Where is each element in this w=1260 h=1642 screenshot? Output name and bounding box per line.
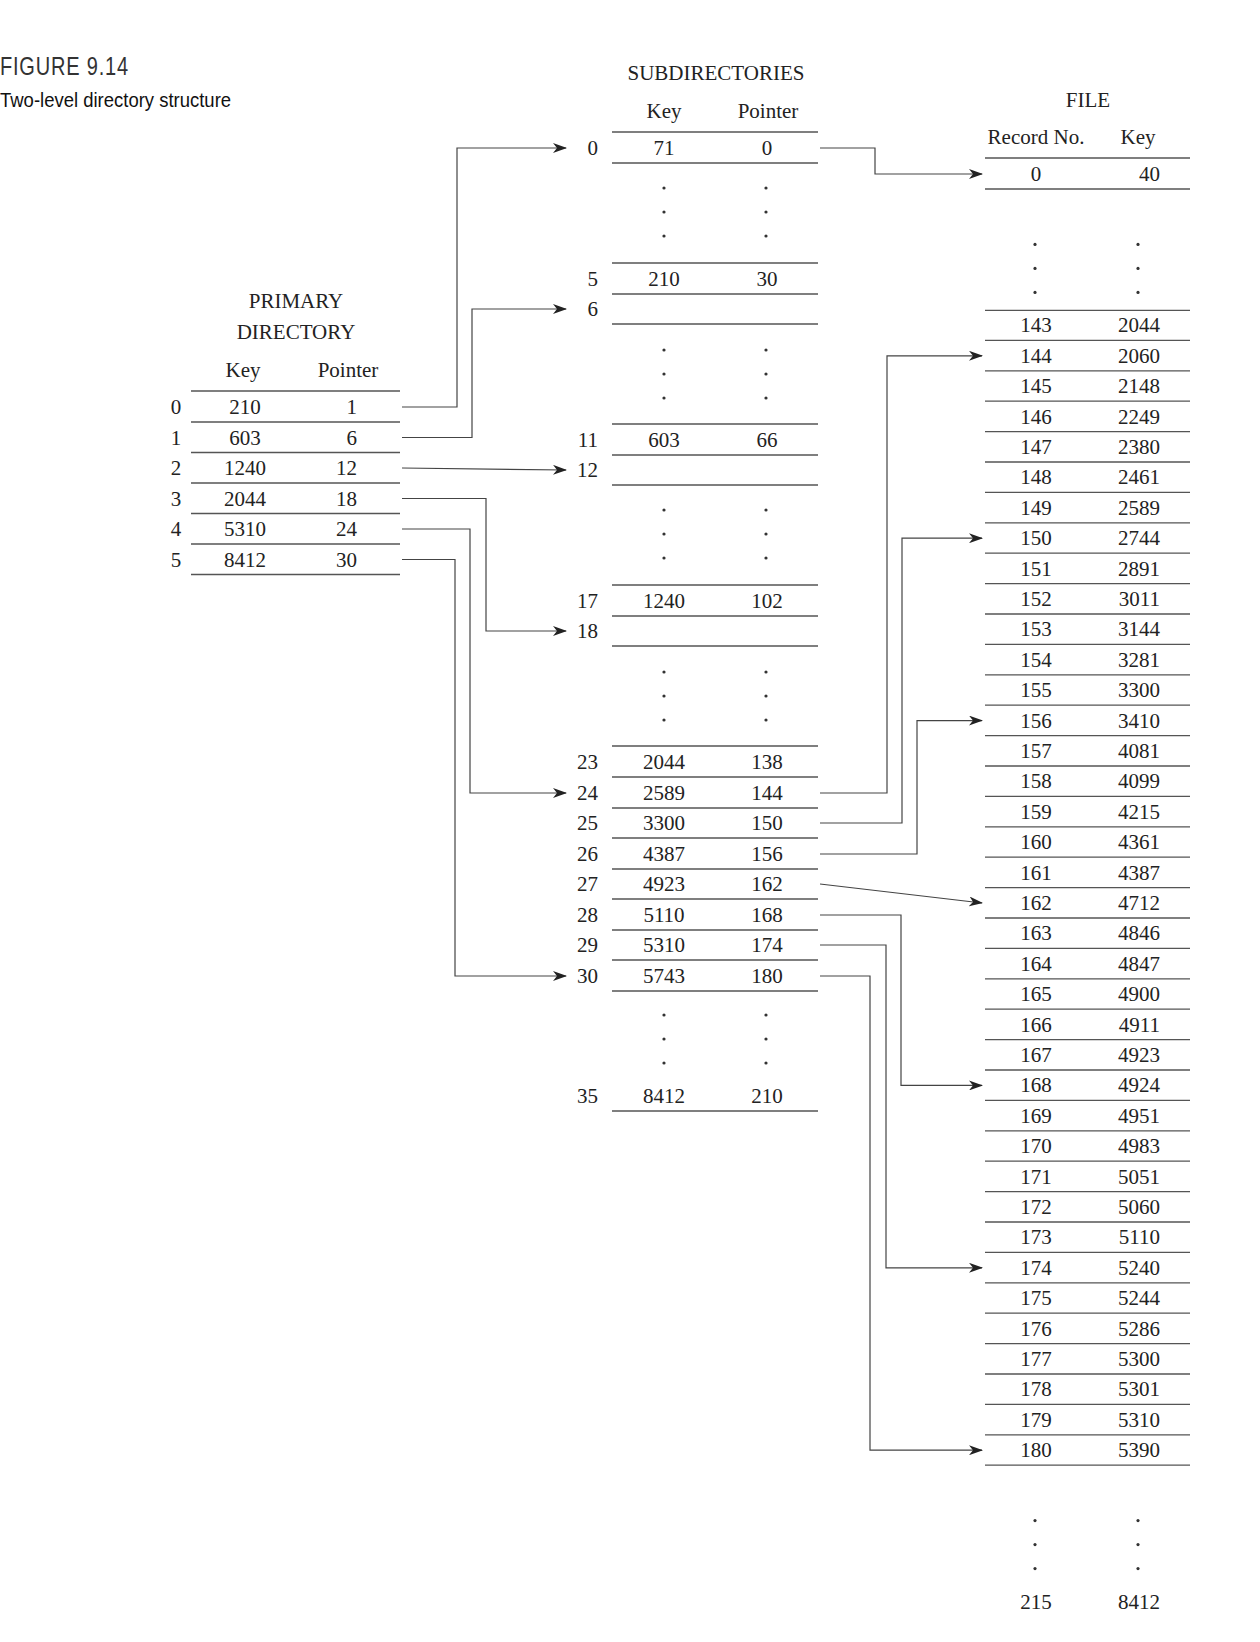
sub-row-key: 2044	[643, 750, 686, 774]
pointer-arrow	[820, 915, 982, 1085]
file-row: 1584099	[985, 769, 1190, 796]
file-row: 2158412	[1020, 1590, 1160, 1614]
primary-title: PRIMARY	[249, 289, 344, 313]
file-row: 1664911	[985, 1013, 1190, 1040]
file-row-key: 5300	[1118, 1347, 1160, 1371]
sub-row-index: 27	[577, 872, 598, 896]
ellipsis-dot	[662, 396, 665, 399]
file-row: 1523011	[985, 587, 1190, 614]
file-row-key: 5051	[1118, 1165, 1160, 1189]
file-row-key: 4923	[1118, 1043, 1160, 1067]
sub-row-index: 35	[577, 1084, 598, 1108]
primary-row-key: 603	[229, 426, 261, 450]
sub-row-key: 71	[654, 136, 675, 160]
file-row-key: 4215	[1118, 800, 1160, 824]
sub-row-pointer: 168	[751, 903, 783, 927]
file-row-key: 5286	[1118, 1317, 1160, 1341]
file-row-record-no: 148	[1020, 465, 1052, 489]
subdirectory-row: 521030	[588, 267, 778, 291]
file-row-record-no: 152	[1020, 587, 1052, 611]
pointer-arrow	[402, 148, 566, 407]
ellipsis-dot	[764, 532, 767, 535]
primary-row: 02101	[171, 395, 400, 422]
sub-row-key: 1240	[643, 589, 685, 613]
file-row-record-no: 163	[1020, 921, 1052, 945]
file-row-record-no: 159	[1020, 800, 1052, 824]
ellipsis-dot	[662, 1037, 665, 1040]
ellipsis-dot	[1033, 1567, 1036, 1570]
file-row-key: 4081	[1118, 739, 1160, 763]
file-row: 1745240	[985, 1256, 1190, 1283]
subdirectory-row: 264387156	[577, 842, 783, 866]
ellipsis-dot	[764, 210, 767, 213]
primary-directory-table: PRIMARYDIRECTORYKeyPointer02101160362124…	[171, 289, 400, 575]
sub-row-key: 603	[648, 428, 680, 452]
ellipsis-dot	[662, 186, 665, 189]
primary-row-pointer: 1	[347, 395, 358, 419]
file-row-record-no: 150	[1020, 526, 1052, 550]
file-row-record-no: 177	[1020, 1347, 1052, 1371]
file-row: 1482461	[985, 465, 1190, 492]
file-row-record-no: 179	[1020, 1408, 1052, 1432]
file-row: 1502744	[985, 526, 1190, 553]
file-row-record-no: 164	[1020, 952, 1052, 976]
subdirectory-row: 1160366	[578, 428, 778, 452]
sub-row-pointer: 210	[751, 1084, 783, 1108]
file-row-key: 3144	[1118, 617, 1161, 641]
file-row-key: 2589	[1118, 496, 1160, 520]
file-row-record-no: 146	[1020, 405, 1052, 429]
sub-row-key: 4923	[643, 872, 685, 896]
file-row-record-no: 160	[1020, 830, 1052, 854]
file-row-record-no: 172	[1020, 1195, 1052, 1219]
ellipsis-dot	[764, 694, 767, 697]
pointer-arrow	[402, 499, 566, 632]
file-row-record-no: 166	[1020, 1013, 1052, 1037]
ellipsis-dot	[1033, 1519, 1036, 1522]
sub-row-pointer: 0	[762, 136, 773, 160]
primary-row-pointer: 12	[336, 456, 357, 480]
file-row: 1644847	[985, 952, 1190, 979]
file-row-record-no: 169	[1020, 1104, 1052, 1128]
ellipsis-dot	[662, 694, 665, 697]
primary-row-index: 0	[171, 395, 182, 419]
file-row: 1472380	[985, 435, 1190, 462]
sub-row-index: 29	[577, 933, 598, 957]
primary-row-index: 5	[171, 548, 182, 572]
file-row-record-no: 153	[1020, 617, 1052, 641]
subdirectories-table: SUBDIRECTORIESKeyPointer0710521030611603…	[577, 61, 818, 1111]
sub-row-index: 23	[577, 750, 598, 774]
file-row-key: 2891	[1118, 557, 1160, 581]
sub-col-pointer: Pointer	[738, 99, 799, 123]
ellipsis-dot	[1033, 267, 1036, 270]
subdirectory-row: 253300150	[577, 811, 783, 835]
sub-row-pointer: 102	[751, 589, 783, 613]
subdirectory-row: 305743180	[577, 964, 783, 988]
file-row: 1462249	[985, 405, 1190, 432]
file-row-key: 2148	[1118, 374, 1160, 398]
file-row-key: 4911	[1119, 1013, 1160, 1037]
file-row-key: 8412	[1118, 1590, 1160, 1614]
file-row: 1512891	[985, 557, 1190, 584]
sub-row-pointer: 180	[751, 964, 783, 988]
file-row-key: 5240	[1118, 1256, 1160, 1280]
file-row-record-no: 157	[1020, 739, 1052, 763]
file-row: 1715051	[985, 1165, 1190, 1192]
ellipsis-dot	[1033, 1543, 1036, 1546]
sub-row-key: 2589	[643, 781, 685, 805]
sub-row-pointer: 156	[751, 842, 783, 866]
pointer-arrow	[820, 538, 982, 823]
subdirectory-row: 171240102	[577, 589, 783, 613]
primary-row-index: 3	[171, 487, 182, 511]
sub-row-index: 11	[578, 428, 598, 452]
file-row: 1634846	[985, 921, 1190, 948]
ellipsis-dot	[662, 532, 665, 535]
file-row-key: 5310	[1118, 1408, 1160, 1432]
file-row-key: 2744	[1118, 526, 1161, 550]
primary-row: 4531024	[171, 517, 400, 544]
file-row: 1492589	[985, 496, 1190, 523]
ellipsis-dot	[1136, 1567, 1139, 1570]
file-row-record-no: 143	[1020, 313, 1052, 337]
file-row: 1543281	[985, 648, 1190, 675]
file-row: 1533144	[985, 617, 1190, 644]
primary-row-key: 2044	[224, 487, 267, 511]
